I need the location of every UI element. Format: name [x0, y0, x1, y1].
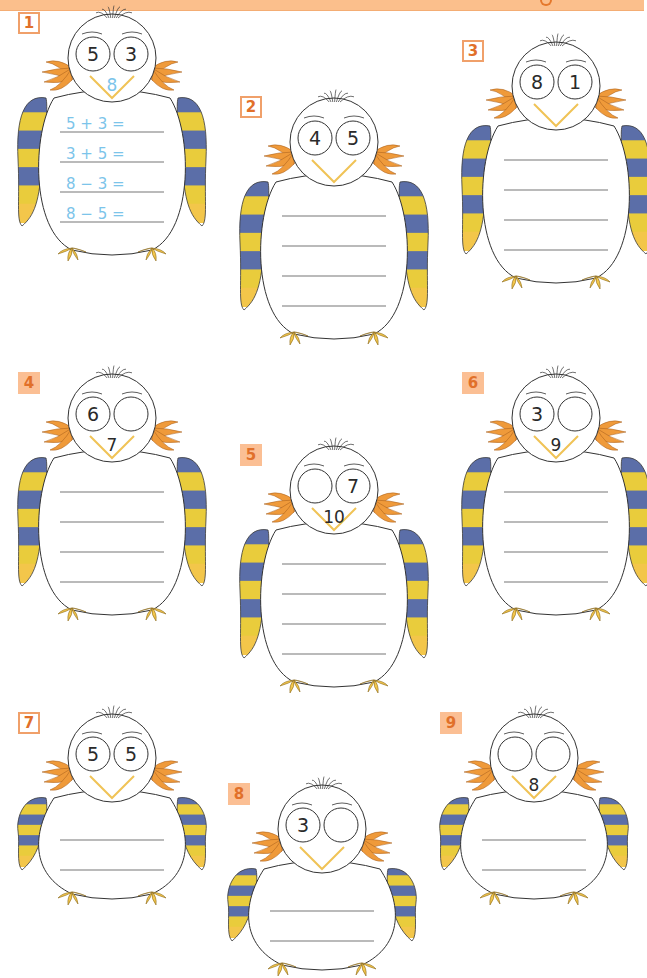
page-header-bar	[0, 0, 644, 11]
left-eye-number[interactable]: 8	[531, 71, 543, 93]
exercise-1: 5385 + 3 =3 + 5 =8 − 3 =8 − 5 =1	[18, 12, 203, 257]
beak-total-number[interactable]: 9	[551, 435, 562, 455]
beak-total-number[interactable]: 8	[107, 75, 118, 95]
exercise-9: 89	[440, 712, 625, 902]
penguin-illustration: 55	[12, 712, 202, 907]
penguin-illustration: 67	[12, 372, 202, 622]
exercise-number-label: 5	[240, 444, 262, 466]
exercise-8: 38	[228, 783, 413, 973]
example-equation: 3 + 5 =	[66, 145, 125, 163]
exercise-7: 557	[18, 712, 203, 902]
right-eye-number[interactable]: 5	[347, 127, 359, 149]
exercise-number-label: 4	[18, 372, 40, 394]
left-eye-number[interactable]: 6	[87, 403, 99, 425]
penguin-illustration: 39	[456, 372, 646, 622]
exercise-number-label: 2	[240, 96, 262, 118]
exercise-2: 452	[240, 96, 425, 341]
penguin-illustration: 8	[434, 712, 624, 907]
right-eye-number[interactable]: 3	[125, 43, 137, 65]
penguin-illustration: 81	[456, 40, 646, 290]
left-eye-number[interactable]: 5	[87, 43, 99, 65]
left-eye-number[interactable]: 4	[309, 127, 321, 149]
penguin-illustration: 45	[234, 96, 424, 346]
example-equation: 8 − 3 =	[66, 175, 125, 193]
exercise-number-label: 6	[462, 372, 484, 394]
example-equation: 5 + 3 =	[66, 115, 125, 133]
exercise-number-label: 7	[18, 712, 40, 734]
example-equation: 8 − 5 =	[66, 205, 125, 223]
beak-total-number[interactable]: 10	[323, 507, 345, 527]
exercise-5: 7105	[240, 444, 425, 689]
penguin-illustration: 710	[234, 444, 424, 694]
penguin-illustration: 3	[222, 783, 412, 978]
left-eye-number[interactable]: 5	[87, 743, 99, 765]
exercise-number-label: 1	[18, 12, 40, 34]
exercise-number-label: 3	[462, 40, 484, 62]
right-eye-number[interactable]: 1	[569, 71, 581, 93]
beak-total-number[interactable]: 7	[107, 435, 118, 455]
exercise-number-label: 8	[228, 783, 250, 805]
exercise-number-label: 9	[440, 712, 462, 734]
right-eye-number[interactable]: 5	[125, 743, 137, 765]
beak-total-number[interactable]: 8	[529, 775, 540, 795]
penguin-illustration: 5385 + 3 =3 + 5 =8 − 3 =8 − 5 =	[12, 12, 202, 262]
left-eye-number[interactable]: 3	[531, 403, 543, 425]
exercise-4: 674	[18, 372, 203, 617]
exercise-6: 396	[462, 372, 647, 617]
right-eye-number[interactable]: 7	[347, 475, 359, 497]
left-eye-number[interactable]: 3	[297, 814, 309, 836]
exercise-3: 813	[462, 40, 647, 285]
page-number-mark	[540, 0, 552, 6]
